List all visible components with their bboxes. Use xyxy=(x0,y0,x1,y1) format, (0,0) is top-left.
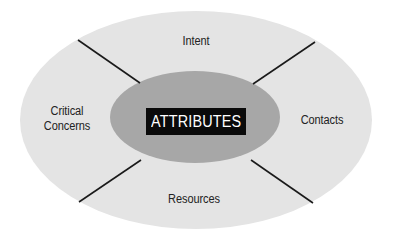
attributes-diagram: ATTRIBUTES Intent Contacts Resources Cri… xyxy=(0,0,393,236)
segment-label-intent: Intent xyxy=(182,34,209,49)
segment-label-critical-concerns: Critical Concerns xyxy=(44,104,90,134)
segment-label-line: Concerns xyxy=(44,119,90,134)
segment-label-resources: Resources xyxy=(168,192,220,207)
center-label-box: ATTRIBUTES xyxy=(146,108,246,135)
segment-label-contacts: Contacts xyxy=(301,113,344,128)
segment-label-line: Critical xyxy=(44,104,90,119)
center-label: ATTRIBUTES xyxy=(151,113,241,131)
